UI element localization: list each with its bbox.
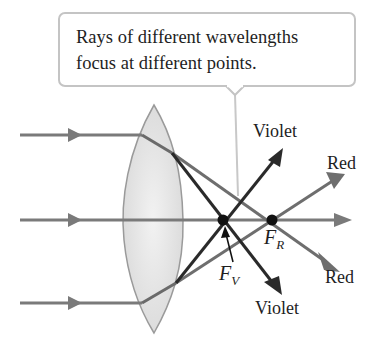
callout-leader-line	[235, 94, 238, 196]
arrow-icon	[68, 296, 82, 310]
callout-text: Rays of different wavelengths focus at d…	[76, 24, 298, 76]
label-violet-bottom: Violet	[255, 298, 299, 319]
arrow-icon	[334, 213, 352, 227]
focal-point-violet	[218, 215, 229, 226]
focal-point-red	[267, 215, 278, 226]
label-red-bottom: Red	[325, 267, 354, 288]
arrow-icon	[68, 128, 82, 142]
label-focal-red: FR	[264, 226, 284, 253]
arrow-icon	[326, 172, 345, 189]
red-ray-down	[172, 153, 326, 262]
red-ray-up	[176, 180, 334, 283]
callout-line-1: Rays of different wavelengths	[76, 24, 298, 50]
arrow-icon	[264, 276, 282, 295]
callout-box: Rays of different wavelengths focus at d…	[58, 12, 356, 87]
label-focal-violet: FV	[219, 262, 239, 289]
arrow-icon	[68, 213, 82, 227]
label-red-top: Red	[327, 153, 356, 174]
label-violet-top: Violet	[253, 121, 297, 142]
callout-line-2: focus at different points.	[76, 50, 298, 76]
